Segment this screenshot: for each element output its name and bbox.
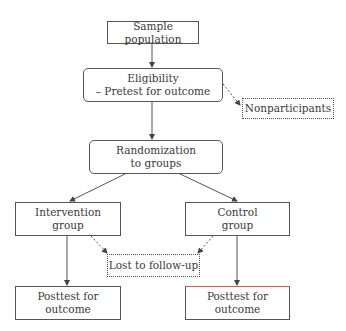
edge-randomization-intervention xyxy=(70,173,127,201)
node-label: outcome xyxy=(215,303,261,316)
node-label: Nonparticipants xyxy=(245,102,331,115)
node-posttest-control: Posttest for outcome xyxy=(185,286,290,320)
node-nonparticipants: Nonparticipants xyxy=(242,98,334,119)
node-label: Eligibility xyxy=(127,72,178,85)
node-label: – Pretest for outcome xyxy=(96,85,211,98)
node-label: Lost to follow-up xyxy=(109,259,198,272)
node-label: to groups xyxy=(131,157,182,170)
edge-eligibility-nonparticipants xyxy=(223,84,240,105)
node-label: Randomization xyxy=(116,144,196,157)
edge-randomization-control xyxy=(178,173,237,201)
edge-intervention-lost xyxy=(91,236,107,253)
node-label: Control xyxy=(217,206,257,219)
node-sample-population: Sample population xyxy=(107,21,199,44)
node-intervention-group: Intervention group xyxy=(15,202,121,236)
node-control-group: Control group xyxy=(185,202,290,236)
node-label: Posttest for xyxy=(37,290,98,303)
node-posttest-intervention: Posttest for outcome xyxy=(15,286,121,320)
node-label: Sample population xyxy=(108,20,198,46)
node-label: outcome xyxy=(45,303,91,316)
node-label: Intervention xyxy=(35,206,101,219)
node-lost-to-follow-up: Lost to follow-up xyxy=(107,254,200,277)
node-label: group xyxy=(52,219,84,232)
node-label: group xyxy=(222,219,254,232)
node-randomization: Randomization to groups xyxy=(89,140,223,174)
edge-control-lost xyxy=(198,236,213,253)
node-eligibility: Eligibility – Pretest for outcome xyxy=(83,68,223,102)
node-label: Posttest for xyxy=(207,290,268,303)
